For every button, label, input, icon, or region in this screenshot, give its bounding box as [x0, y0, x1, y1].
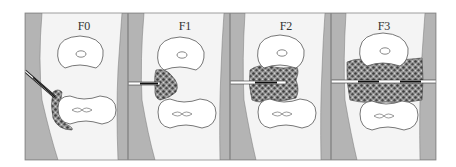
upper-canal [277, 50, 287, 56]
panel-f3 [331, 13, 437, 160]
panel-label-f2: F2 [280, 19, 293, 33]
upper-canal [76, 51, 86, 57]
panel-f1 [128, 13, 230, 160]
upper-canal [177, 52, 187, 58]
panel-f0 [25, 13, 128, 160]
needle [331, 80, 437, 83]
panel-label-f0: F0 [78, 19, 91, 33]
panel-label-f3: F3 [378, 19, 391, 33]
panel-f2 [230, 13, 331, 160]
panel-label-f1: F1 [179, 19, 192, 33]
fusion-grade-figure: F0 F1 F2 F3 [0, 0, 456, 167]
upper-canal [380, 48, 390, 54]
